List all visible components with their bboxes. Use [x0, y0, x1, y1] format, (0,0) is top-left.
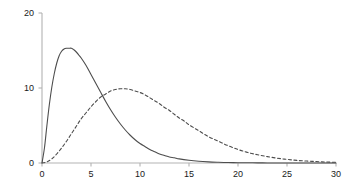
- x-tick-label: 20: [233, 169, 243, 179]
- plot-area: [0, 0, 347, 185]
- x-tick-label: 5: [88, 169, 93, 179]
- y-tick-label: 0: [8, 158, 34, 168]
- series-line-solid-curve: [42, 48, 336, 163]
- x-tick-label: 15: [184, 169, 194, 179]
- x-tick-label: 25: [282, 169, 292, 179]
- x-tick-label: 30: [331, 169, 341, 179]
- series-line-dashed-curve: [42, 89, 336, 163]
- y-tick-label: 10: [8, 83, 34, 93]
- y-tick-label: 20: [8, 8, 34, 18]
- x-tick-label: 10: [135, 169, 145, 179]
- x-tick-label: 0: [39, 169, 44, 179]
- chart-container: 051015202530 01020: [0, 0, 347, 185]
